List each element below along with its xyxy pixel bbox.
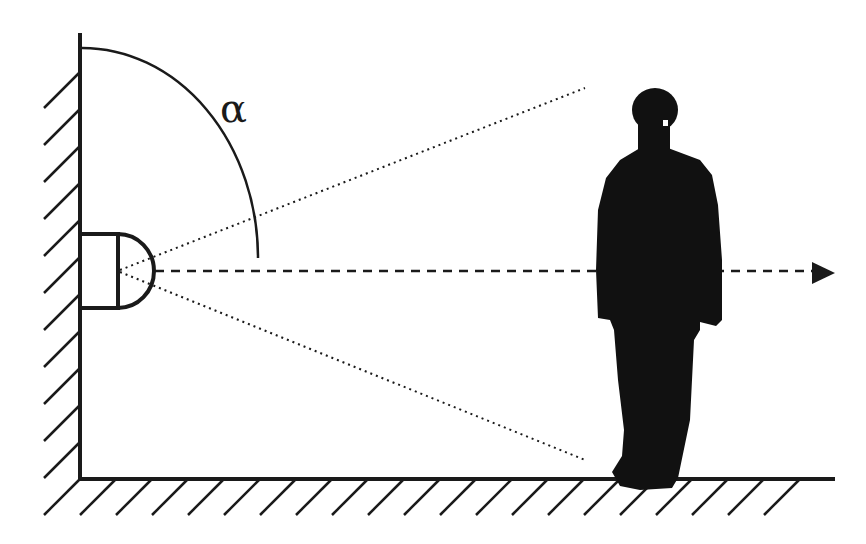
wall-hatching [44, 72, 80, 478]
sensor [80, 234, 154, 308]
detection-angle-arc [82, 48, 258, 258]
arrowhead-icon [812, 262, 835, 284]
figure-highlight [663, 120, 668, 126]
person-silhouette [596, 88, 722, 490]
angle-label: α [220, 85, 247, 131]
lower-fov-line [120, 272, 585, 460]
floor-hatching [44, 479, 800, 515]
upper-fov-line [120, 88, 585, 270]
sensor-diagram: α [0, 0, 866, 544]
